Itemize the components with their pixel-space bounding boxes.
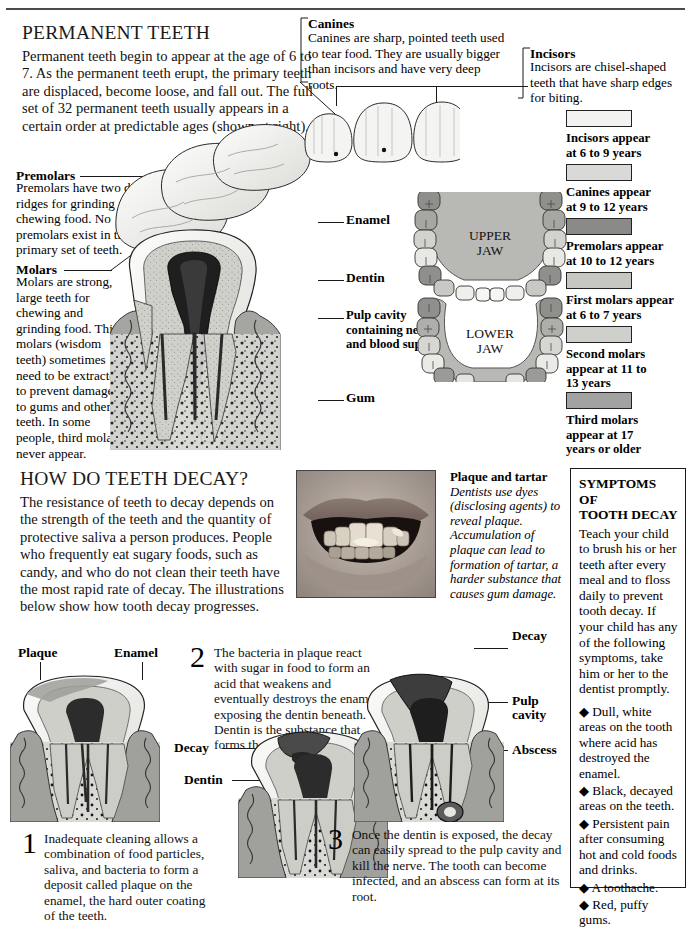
leader-line-canine-top [336, 86, 528, 87]
symptom-list-item: ◆ Black, decayed areas on the teeth. [579, 783, 678, 814]
legend-label-third-molars-line2: appear at 17 [566, 428, 633, 442]
legend-label-second-molars-line1: Second molars [566, 347, 645, 361]
photo-caption-text: Dentists use dyes (disclosing agents) to… [450, 485, 562, 602]
legend-label-first-molars-line1: First molars appear [566, 293, 674, 307]
jaw-label-upper-line2: JAW [477, 243, 504, 258]
leader-line-dentin [318, 280, 344, 281]
symptom-text: Red, puffy gums. [579, 897, 648, 927]
legend-item-canines: Canines appear at 9 to 12 years [566, 164, 691, 214]
bullet-diamond-icon: ◆ [579, 783, 589, 798]
jaw-label-lower-line2: JAW [477, 341, 504, 356]
bullet-diamond-icon: ◆ [579, 897, 589, 912]
legend-label-incisors-line1: Incisors appear [566, 131, 650, 145]
bullet-diamond-icon: ◆ [579, 880, 589, 895]
step-number-2: 2 [190, 642, 205, 672]
tooth-label-gum: Gum [346, 390, 375, 406]
photo-caption-block: Plaque and tartar Dentists use dyes (dis… [450, 470, 562, 601]
step1-text-firstlines: Inadequate cleaning allows a combination… [44, 831, 208, 923]
symptom-text: Black, decayed areas on the teeth. [579, 783, 674, 813]
symptom-text: A toothache. [592, 880, 659, 895]
leader-line-gum [318, 400, 344, 401]
symptom-list-item: ◆ A toothache. [579, 880, 678, 895]
legend-label-first-molars-line2: at 6 to 7 years [566, 308, 641, 322]
leader-line-step3-decay [474, 648, 508, 649]
bullet-diamond-icon: ◆ [579, 816, 589, 831]
jaw-label-upper-line1: UPPER [469, 228, 511, 243]
legend-label-premolars-line1: Premolars appear [566, 239, 663, 253]
legend-item-first-molars: First molars appear at 6 to 7 years [566, 272, 691, 322]
symptom-text: Persistent pain after consuming hot and … [579, 816, 677, 877]
top-divider-rule [6, 8, 685, 10]
front-teeth-illustration [300, 94, 460, 164]
step-number-1: 1 [22, 828, 37, 858]
legend-swatch-second-molars [566, 326, 632, 343]
legend-label-premolars-line2: at 10 to 12 years [566, 254, 654, 268]
legend-swatch-first-molars [566, 272, 632, 289]
callout-text-canines: Canines are sharp, pointed teeth used to… [308, 30, 508, 92]
legend-swatch-incisors [566, 110, 632, 127]
legend-item-third-molars: Third molars appear at 17 years or older [566, 392, 691, 457]
symptoms-title-line2: TOOTH DECAY [579, 507, 678, 522]
legend-swatch-third-molars [566, 392, 632, 409]
step2-label-decay: Decay [174, 740, 209, 756]
step3-label-pulp-cavity: Pulp cavity [512, 694, 566, 723]
tooth-label-enamel: Enamel [346, 212, 390, 228]
callout-text-incisors: Incisors are chisel-shaped teeth that ha… [530, 59, 682, 106]
step-number-3: 3 [328, 824, 343, 854]
step3-label-decay: Decay [512, 628, 547, 644]
legend-item-second-molars: Second molars appear at 11 to 13 years [566, 326, 691, 391]
decay-stage3-tooth-illustration [354, 672, 504, 822]
page-title-how-do-teeth-decay: HOW DO TEETH DECAY? [20, 468, 248, 490]
leader-line-pulp-cavity [318, 318, 344, 319]
legend-item-incisors: Incisors appear at 6 to 9 years [566, 110, 691, 160]
legend-label-canines-line1: Canines appear [566, 185, 651, 199]
legend-label-third-molars-line3: years or older [566, 442, 641, 456]
tooth-label-dentin: Dentin [346, 270, 385, 286]
legend-item-premolars: Premolars appear at 10 to 12 years [566, 218, 691, 268]
symptoms-box-body: Teach your child to brush his or her tee… [579, 526, 678, 698]
step3-label-abscess: Abscess [512, 742, 557, 758]
symptoms-of-tooth-decay-box: SYMPTOMS OF TOOTH DECAY Teach your child… [570, 468, 686, 888]
leader-line-enamel [318, 222, 344, 223]
mouth-photo-graphic [297, 471, 435, 597]
bullet-diamond-icon: ◆ [579, 704, 589, 719]
symptom-list-item: ◆ Red, puffy gums. [579, 897, 678, 928]
legend-label-second-molars-line2: appear at 11 to [566, 362, 646, 376]
page-title-permanent-teeth: PERMANENT TEETH [22, 22, 210, 44]
jaw-arch-diagram: UPPER JAW LOWER JAW [406, 192, 576, 382]
legend-swatch-premolars [566, 218, 632, 235]
legend-label-second-molars-line3: 13 years [566, 376, 611, 390]
symptoms-box-title: SYMPTOMS OF TOOTH DECAY [579, 476, 678, 523]
symptom-list-item: ◆ Dull, white areas on the tooth where a… [579, 704, 678, 781]
symptoms-title-line1: SYMPTOMS OF [579, 476, 656, 507]
step1-label-enamel: Enamel [114, 645, 158, 661]
decay-intro-text: The resistance of teeth to decay depends… [20, 494, 292, 616]
photo-caption-title: Plaque and tartar [450, 470, 562, 485]
legend-label-canines-line2: at 9 to 12 years [566, 200, 648, 214]
legend-swatch-canines [566, 164, 632, 181]
mouth-photo [296, 470, 436, 598]
legend-label-third-molars-line1: Third molars [566, 413, 638, 427]
step2-label-dentin: Dentin [184, 772, 223, 788]
decay-stage1-tooth-illustration [10, 672, 160, 822]
leader-line-molars [64, 270, 112, 271]
step3-text: Once the dentin is exposed, the decay ca… [352, 827, 566, 904]
legend-label-incisors-line2: at 6 to 9 years [566, 146, 641, 160]
symptom-text: Dull, white areas on the tooth where aci… [579, 704, 672, 781]
jaw-label-lower-line1: LOWER [466, 326, 514, 341]
step1-label-plaque: Plaque [18, 645, 57, 661]
step1-text: Inadequate cleaning allows a combination… [44, 831, 208, 923]
symptom-list-item: ◆ Persistent pain after consuming hot an… [579, 816, 678, 878]
